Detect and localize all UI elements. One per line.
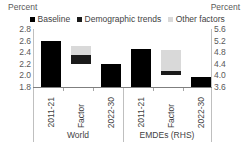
category-label-world-2011-21: 2011-21 xyxy=(41,88,61,128)
left-tick-label: 1.8 xyxy=(19,83,31,92)
legend-label-other-factors: Other factors xyxy=(176,14,225,24)
right-tick-label: 4.8 xyxy=(214,48,226,57)
left-tick-label: 2.4 xyxy=(19,48,31,57)
left-axis-unit-label: Percent xyxy=(8,2,37,12)
category-label-band: 2011-21 Factor 2022-30 2011-21 Factor 20… xyxy=(33,88,212,128)
square-marker-icon xyxy=(77,17,82,22)
category-label-text: Factor xyxy=(77,104,86,128)
left-tick-label: 2.2 xyxy=(19,60,31,69)
category-label-emdes-2011-21: 2011-21 xyxy=(131,88,151,128)
legend-label-baseline: Baseline xyxy=(38,14,71,24)
square-marker-icon xyxy=(168,17,173,22)
left-tick-label: 2.8 xyxy=(19,25,31,34)
legend-item-demographic-trends: Demographic trends xyxy=(77,14,161,24)
chart-container: Percent Percent Baseline Demographic tre… xyxy=(0,0,245,144)
left-tick-label: 2.0 xyxy=(19,71,31,80)
category-label-text: Factor xyxy=(167,104,176,128)
category-label-emdes-2022-30: 2022-30 xyxy=(191,88,211,128)
category-label-text: 2011-21 xyxy=(137,97,146,128)
bar-segment-other-factors xyxy=(161,50,181,70)
plot-area xyxy=(33,29,211,87)
legend-item-baseline: Baseline xyxy=(30,14,70,24)
right-tick-label: 4.4 xyxy=(214,60,226,69)
category-label-text: 2022-30 xyxy=(107,97,116,128)
legend-item-other-factors: Other factors xyxy=(168,14,225,24)
category-label-text: 2022-30 xyxy=(197,97,206,128)
right-tick-label: 5.6 xyxy=(214,25,226,34)
square-marker-icon xyxy=(30,17,35,22)
bar-segment-demographic-trends xyxy=(161,71,181,75)
category-label-world-factor: Factor xyxy=(71,88,91,128)
bar-segment-other-factors xyxy=(71,46,91,55)
right-axis-line xyxy=(211,29,212,88)
legend-label-demographic-trends: Demographic trends xyxy=(85,14,162,24)
chart-legend: Baseline Demographic trends Other factor… xyxy=(30,14,225,24)
right-tick-label: 4.0 xyxy=(214,71,226,80)
bar-segment-baseline xyxy=(101,64,121,87)
group-label-world: World xyxy=(33,128,123,142)
bar-segment-baseline xyxy=(131,49,151,87)
category-label-text: 2011-21 xyxy=(47,97,56,128)
right-axis-unit-label: Percent xyxy=(211,2,240,12)
right-tick-label: 3.6 xyxy=(214,83,226,92)
bar-segment-baseline xyxy=(41,41,61,87)
left-tick-label: 2.6 xyxy=(19,36,31,45)
bar-segment-baseline xyxy=(191,77,211,87)
category-label-emdes-factor: Factor xyxy=(161,88,181,128)
right-tick-label: 5.2 xyxy=(214,36,226,45)
category-label-world-2022-30: 2022-30 xyxy=(101,88,121,128)
bar-segment-demographic-trends xyxy=(71,55,91,64)
group-label-emdes: EMDEs (RHS) xyxy=(123,128,211,142)
